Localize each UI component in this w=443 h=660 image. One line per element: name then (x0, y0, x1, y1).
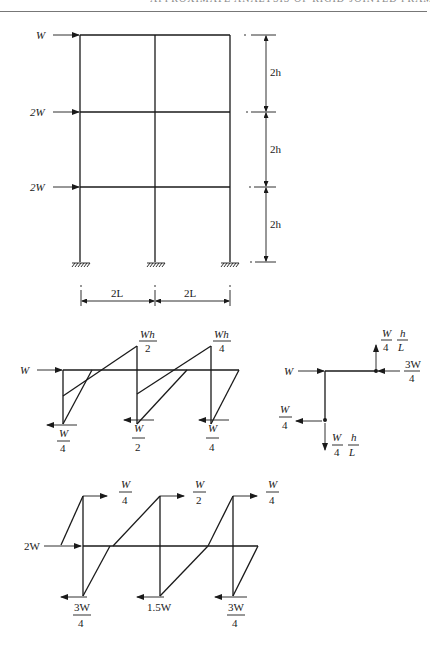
member-line (233, 263, 236, 267)
shear-label-den: 2 (196, 494, 202, 506)
joint-free-body-diagram: W W 4 h L 3W 4 W 4 W 4 h L (279, 327, 422, 458)
force-label: W (280, 403, 290, 415)
member-line (236, 263, 239, 267)
applied-load-label: W (284, 365, 294, 377)
member-line (61, 496, 83, 545)
member-line (224, 263, 227, 267)
force-label: 4 (409, 372, 415, 384)
shear-label: 1.5W (147, 601, 172, 613)
force-label: 4 (282, 419, 288, 431)
force-label: L (397, 341, 404, 353)
shear-label-num: 3W (74, 601, 91, 613)
storey-height-label: 2h (270, 143, 282, 155)
bay-span-label: 2L (184, 287, 197, 299)
shear-label-num: W (59, 427, 69, 439)
member-line (113, 496, 160, 546)
load-label-roof: W (36, 29, 46, 41)
fixed-support-middle (147, 263, 165, 267)
load-label-first: 2W (30, 181, 46, 193)
member-line (208, 496, 233, 546)
member-line (150, 263, 153, 267)
member-line (233, 546, 258, 596)
shear-label-den: 4 (122, 494, 128, 506)
shear-label-den: 4 (209, 441, 215, 453)
member-line (81, 263, 84, 267)
shear-label-den: 4 (269, 494, 275, 506)
member-line (72, 263, 75, 267)
moment-label-den: 4 (219, 342, 225, 354)
frame-diagram: W 2W 2W 2h 2h 2h (30, 29, 282, 306)
member-line (230, 263, 233, 267)
applied-load-label: W (20, 364, 30, 376)
applied-load-label: 2W (24, 540, 41, 552)
shear-label-num: W (134, 422, 144, 434)
member-line (147, 263, 150, 267)
top-storey-moment-diagram: W Wh 2 Wh 4 W 4 W 2 W 4 (20, 328, 239, 454)
member-line (159, 263, 162, 267)
fixed-support-right (221, 263, 239, 267)
shear-label-den: 4 (78, 617, 84, 629)
member-line (75, 263, 78, 267)
member-line (84, 263, 87, 267)
force-label: h (351, 431, 357, 443)
member-line (83, 546, 110, 596)
force-label: h (400, 327, 406, 339)
shear-label-num: W (195, 478, 205, 490)
structural-diagrams: W 2W 2W 2h 2h 2h (0, 0, 443, 660)
shear-label-den: 4 (232, 617, 238, 629)
member-line (153, 263, 156, 267)
member-line (78, 263, 81, 267)
member-line (87, 263, 90, 267)
member-line (227, 263, 230, 267)
moment-label-den: 2 (145, 342, 151, 354)
joint-dot (323, 418, 327, 422)
shear-label-num: W (208, 422, 218, 434)
storey-height-label: 2h (270, 66, 282, 78)
force-label: L (348, 446, 355, 458)
bay-span-label: 2L (111, 287, 124, 299)
second-storey-moment-diagram: 2W W 4 W 2 W 4 3W 4 1.5W 3W 4 (24, 478, 279, 629)
fixed-support-left (72, 263, 90, 267)
shear-label-num: W (268, 478, 278, 490)
span-dimension (81, 285, 230, 306)
member-line (211, 370, 239, 424)
force-label: W (332, 431, 342, 443)
load-label-second: 2W (30, 106, 46, 118)
member-line (162, 263, 165, 267)
force-label: 3W (405, 358, 422, 370)
shear-label-den: 2 (135, 441, 141, 453)
force-label: W (382, 327, 392, 339)
member-line (63, 370, 92, 424)
force-label: 4 (383, 341, 389, 353)
moment-label-num: Wh (214, 328, 229, 340)
member-line (221, 263, 224, 267)
storey-height-label: 2h (270, 218, 282, 230)
moment-label-num: Wh (140, 328, 155, 340)
member-line (63, 346, 137, 396)
member-line (156, 263, 159, 267)
force-label: 4 (334, 446, 340, 458)
shear-label-num: W (121, 478, 131, 490)
shear-label-den: 4 (60, 442, 66, 454)
shear-label-num: 3W (228, 601, 245, 613)
member-line (160, 546, 208, 596)
